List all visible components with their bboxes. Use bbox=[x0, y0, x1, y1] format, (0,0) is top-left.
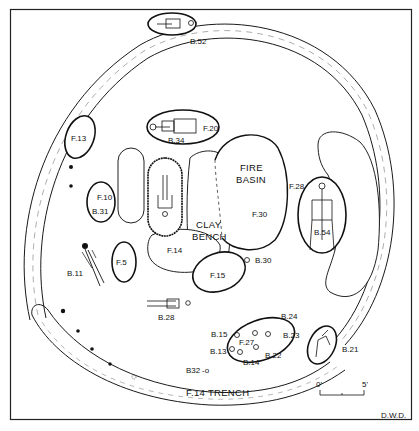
f20-label: F.20 bbox=[203, 124, 219, 133]
pit-f28: F.28 B.54 bbox=[289, 177, 346, 253]
b32-label: B32 bbox=[186, 366, 201, 375]
b22-label: B.22 bbox=[265, 351, 282, 360]
site-plan-drawing: FIRE BASIN F.30 CLAY BENCH F.14 F.20 B.3… bbox=[0, 0, 419, 431]
f5-label: F.5 bbox=[116, 258, 127, 267]
fire-basin-id: F.30 bbox=[252, 210, 268, 219]
b11-label: B.11 bbox=[67, 269, 83, 278]
clay-bench-label-2: BENCH bbox=[192, 231, 227, 242]
f28-label: F.28 bbox=[289, 182, 305, 191]
clay-bench-label-1: CLAY bbox=[196, 219, 222, 230]
post-hole bbox=[90, 347, 94, 351]
scale-start-label: 0' bbox=[316, 380, 322, 389]
pit-f20: F.20 B.34 bbox=[147, 110, 219, 145]
f27-label: F.27 bbox=[239, 338, 255, 347]
scale-end-label: 5' bbox=[362, 380, 368, 389]
b54-label: B.54 bbox=[314, 228, 331, 237]
f15-label: F.15 bbox=[210, 271, 226, 280]
fire-basin-label-1: FIRE bbox=[240, 162, 263, 173]
west-clay-bench bbox=[118, 148, 144, 223]
f14-label: F.14 bbox=[167, 246, 183, 255]
trench-label: F.14 TRENCH bbox=[186, 387, 249, 398]
burial-b28: B.28 bbox=[147, 299, 190, 322]
b15-label: B.15 bbox=[211, 330, 228, 339]
b23-label: B.23 bbox=[283, 331, 300, 340]
fire-basin-label-2: BASIN bbox=[236, 174, 266, 185]
b32-marker: -o bbox=[202, 366, 210, 375]
b30-label: B.30 bbox=[255, 256, 272, 265]
b21-label: B.21 bbox=[342, 345, 359, 354]
b24-label: B.24 bbox=[281, 312, 298, 321]
post-hole bbox=[61, 309, 65, 313]
b52-label: B.52 bbox=[190, 37, 207, 46]
b14-label: B.14 bbox=[243, 358, 260, 367]
b31-label: B.31 bbox=[92, 207, 109, 216]
b28-label: B.28 bbox=[158, 313, 175, 322]
post-hole bbox=[69, 184, 73, 188]
f13-label: F.13 bbox=[71, 134, 87, 143]
pit-f5: F.5 bbox=[112, 242, 136, 282]
post-hole bbox=[69, 165, 73, 169]
post-hole bbox=[108, 362, 111, 365]
central-burial-pit bbox=[148, 158, 182, 236]
f10-label: F.10 bbox=[97, 193, 113, 202]
scale-bar: 0' 5' bbox=[316, 380, 368, 395]
b34-label: B.34 bbox=[168, 136, 185, 145]
burial-b11: B.11 bbox=[67, 243, 104, 286]
pit-b52: B.52 bbox=[148, 13, 207, 46]
b13-label: B.13 bbox=[210, 347, 227, 356]
post-hole bbox=[76, 329, 80, 333]
pit-f10: F.10 B.31 bbox=[87, 182, 115, 222]
pit-f27: F.27 B.24 B.23 B.22 B.15 B.13 B.14 bbox=[210, 309, 301, 371]
author-initials: D.W.D. bbox=[381, 411, 406, 420]
